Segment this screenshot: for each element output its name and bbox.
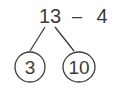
operator: – xyxy=(72,6,82,26)
subtrahend: 4 xyxy=(96,5,107,27)
bond-right-value: 10 xyxy=(68,57,89,78)
bond-line-left xyxy=(30,27,45,51)
bond-line-right xyxy=(55,27,74,51)
number-bond-diagram: 13 – 4 3 10 xyxy=(0,0,114,94)
bond-left-value: 3 xyxy=(25,57,36,78)
bond-circle-right: 10 xyxy=(63,52,95,82)
minuend: 13 xyxy=(39,5,61,27)
bond-circle-left: 3 xyxy=(15,52,45,82)
